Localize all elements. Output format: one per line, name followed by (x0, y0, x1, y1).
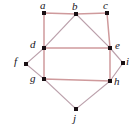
graph-edge-h-j (76, 81, 110, 109)
vertex-label-j: j (73, 113, 76, 124)
graph-edge-a-b (44, 13, 76, 14)
edge-group-outer (26, 48, 123, 109)
edge-group-frame (44, 13, 110, 81)
graph-vertex-d[interactable] (42, 46, 46, 50)
graph-vertex-e[interactable] (108, 46, 112, 50)
vertex-label-i: i (126, 56, 129, 67)
vertex-label-g: g (30, 73, 36, 84)
vertex-label-e: e (115, 40, 120, 51)
graph-edge-g-h (44, 79, 110, 81)
graph-figure: abcdefghij (0, 0, 132, 129)
graph-vertex-c[interactable] (105, 11, 109, 15)
graph-vertex-g[interactable] (42, 77, 46, 81)
vertex-label-h: h (114, 76, 120, 87)
graph-edge-b-e (76, 14, 110, 48)
edge-group-diagonal (44, 14, 110, 48)
graph-edge-b-d (44, 14, 76, 48)
graph-canvas (0, 0, 132, 129)
vertex-label-d: d (30, 39, 36, 50)
graph-vertex-f[interactable] (24, 62, 28, 66)
graph-edge-d-f (26, 48, 44, 64)
vertex-label-b: b (72, 1, 78, 12)
graph-vertex-h[interactable] (108, 79, 112, 83)
graph-vertex-i[interactable] (121, 61, 125, 65)
graph-edge-g-j (44, 79, 76, 109)
graph-vertex-j[interactable] (74, 107, 78, 111)
graph-vertex-b[interactable] (74, 12, 78, 16)
vertex-label-a: a (40, 0, 46, 11)
graph-edge-c-e (107, 13, 110, 48)
graph-vertex-a[interactable] (42, 11, 46, 15)
graph-edge-b-c (76, 13, 107, 14)
vertex-label-c: c (103, 0, 108, 11)
vertex-label-f: f (14, 56, 17, 67)
